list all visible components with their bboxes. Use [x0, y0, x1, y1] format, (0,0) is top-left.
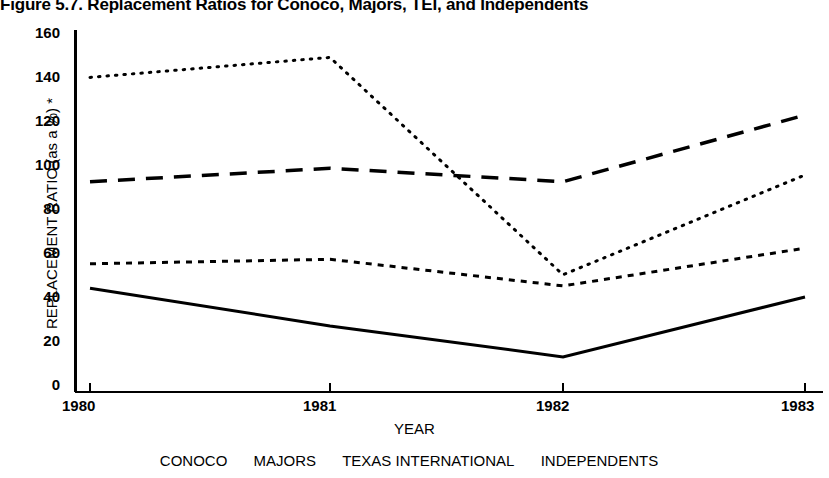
series-line-conoco — [90, 288, 805, 357]
legend-item-conoco: CONOCO — [160, 452, 228, 469]
chart-legend: CONOCO MAJORS TEXAS INTERNATIONAL INDEPE… — [0, 452, 829, 469]
x-axis-title: YEAR — [0, 420, 829, 437]
x-tick-label-1983: 1983 — [781, 398, 814, 414]
series-line-majors — [90, 115, 805, 182]
chart-plot-area: REPLACEMENT RATIO (as a %) * 160 140 120… — [0, 0, 829, 478]
chart-canvas — [0, 0, 829, 478]
legend-item-majors: MAJORS — [254, 452, 317, 469]
legend-item-independents: INDEPENDENTS — [541, 452, 659, 469]
x-tick-label-1982: 1982 — [536, 398, 569, 414]
x-tick-label-1980: 1980 — [62, 398, 95, 414]
series-line-independents — [90, 248, 805, 286]
series-line-texas-international — [90, 57, 805, 274]
x-tick-label-1981: 1981 — [303, 398, 336, 414]
legend-item-texas-international: TEXAS INTERNATIONAL — [342, 452, 514, 469]
